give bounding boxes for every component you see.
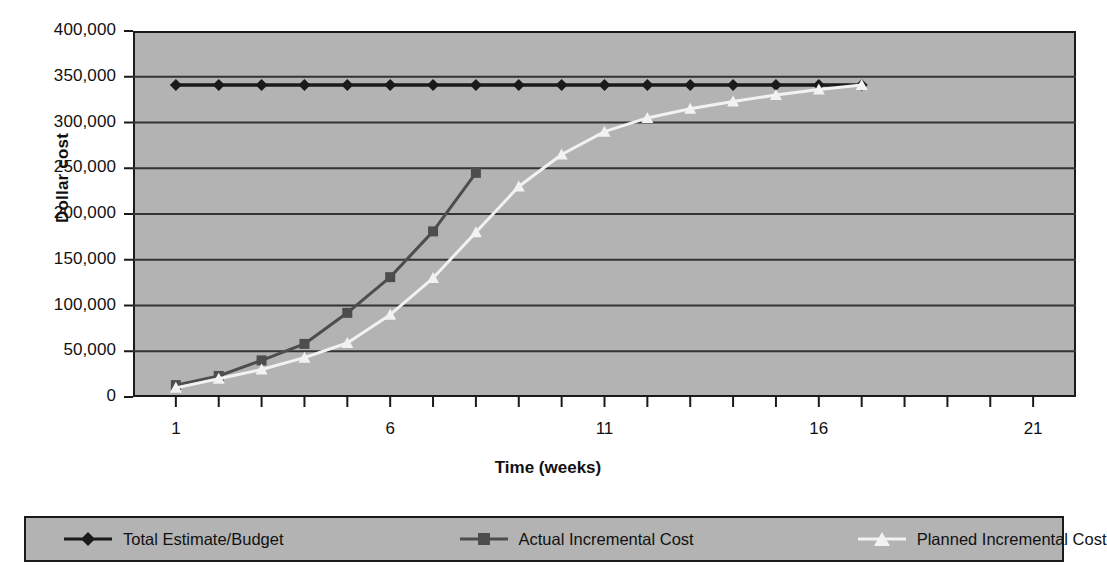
y-tick-label: 300,000 [8,112,116,132]
legend-item-actual-incremental-cost: Actual Incremental Cost [458,518,694,560]
chart-legend: Total Estimate/Budget Actual Incremental… [24,516,1064,562]
data-series-layer [170,79,868,393]
y-tick-label: 400,000 [8,20,116,40]
x-tick-label: 21 [1003,419,1063,439]
legend-label: Actual Incremental Cost [519,530,694,549]
square-marker-icon [458,528,510,550]
series-total-estimate-budget [170,79,868,91]
x-tick-label: 11 [575,419,635,439]
x-tick-marks [176,397,1033,407]
legend-label: Total Estimate/Budget [123,530,284,549]
y-tick-label: 100,000 [8,295,116,315]
legend-label: Planned Incremental Cost [917,530,1107,549]
legend-item-total-estimate-budget: Total Estimate/Budget [62,518,284,560]
y-tick-label: 350,000 [8,66,116,86]
diamond-marker-icon [62,528,114,550]
y-tick-marks [124,31,133,397]
series-planned-incremental-cost [170,79,868,393]
gridlines [133,77,1076,352]
triangle-marker-icon [856,528,908,550]
y-tick-label: 0 [8,386,116,406]
chart-container: Dollar cost 050,000100,000150,000200,000… [0,0,1096,500]
x-tick-label: 16 [789,419,849,439]
y-tick-label: 50,000 [8,340,116,360]
y-tick-label: 250,000 [8,157,116,177]
y-tick-label: 150,000 [8,249,116,269]
y-tick-label: 200,000 [8,203,116,223]
x-tick-label: 6 [360,419,420,439]
x-tick-label: 1 [146,419,206,439]
x-axis-label: Time (weeks) [0,458,1096,478]
legend-item-planned-incremental-cost: Planned Incremental Cost [856,518,1107,560]
